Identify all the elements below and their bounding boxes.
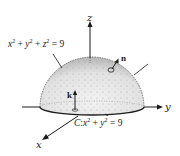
y-axis-arrowhead xyxy=(157,105,163,110)
x-axis-arrowhead xyxy=(42,134,49,140)
surface-equation: x2 + y2 + z2 = 9 xyxy=(8,40,64,50)
x-axis-label: x xyxy=(36,140,42,150)
normal-vector-label: n xyxy=(121,54,126,63)
hemisphere-diagram: z y x n k x2 + y2 + z2 = 9 C:x2 + y2 = 9 xyxy=(0,0,180,156)
boundary-curve-equation: C:x2 + y2 = 9 xyxy=(74,119,122,129)
unit-vector-k-label: k xyxy=(67,91,72,100)
y-axis-label: y xyxy=(165,102,171,112)
tangent-line xyxy=(134,64,148,75)
z-axis-label: z xyxy=(87,13,92,23)
surface-label-leader xyxy=(53,54,62,68)
hemisphere-shading xyxy=(40,57,144,115)
diagram-graphics xyxy=(0,0,180,156)
